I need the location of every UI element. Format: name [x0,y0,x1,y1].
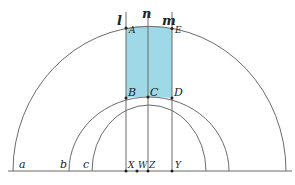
label-Y: Y [175,160,182,170]
label-a: a [19,158,26,171]
label-E: E [174,25,182,35]
geometry-diagram: l n m A E B C D a b c X W Z Y [0,0,295,185]
label-C: C [150,86,159,99]
label-D: D [173,86,183,99]
label-W: W [138,160,148,170]
label-b: b [60,158,67,171]
label-m: m [162,13,176,28]
point-A [125,27,128,30]
label-l: l [117,13,122,28]
label-Z: Z [148,160,156,170]
point-Y [171,170,174,173]
label-c: c [83,158,89,171]
label-A: A [128,25,136,35]
label-X: X [127,160,135,170]
label-n: n [142,6,151,21]
label-B: B [127,86,136,99]
